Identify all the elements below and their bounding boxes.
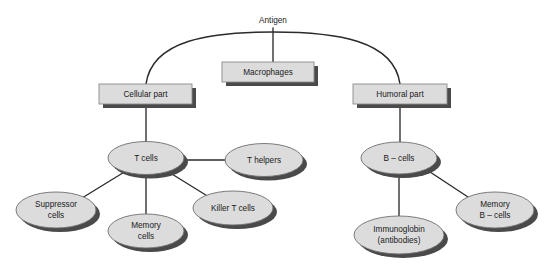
node-t-cells[interactable]: T cells (108, 142, 188, 179)
killer-t-cells-body[interactable] (193, 191, 273, 225)
edge-t-cells-to-suppressor-cells (82, 171, 126, 198)
node-b-cells[interactable]: B – cells (361, 142, 441, 178)
suppressor-cells-body[interactable] (16, 192, 96, 228)
memory-b-cells-body[interactable] (456, 192, 534, 228)
immunoglobin-body[interactable] (354, 216, 444, 254)
node-memory-cells[interactable]: Memory cells (108, 214, 188, 252)
immune-response-diagram: Antigen Macrophages Cellular part Humora… (0, 0, 547, 270)
memory-cells-body[interactable] (108, 214, 184, 248)
node-t-helpers[interactable]: T helpers (225, 144, 307, 181)
t-cells-body[interactable] (108, 142, 184, 175)
node-immunoglobin[interactable]: Immunoglobin (antibodies) (354, 216, 448, 258)
diagram-canvas: Antigen Macrophages Cellular part Humora… (0, 0, 547, 270)
node-memory-b-cells[interactable]: Memory B – cells (456, 192, 538, 232)
macrophages-body[interactable] (222, 62, 314, 82)
node-humoral-part[interactable]: Humoral part (353, 84, 451, 108)
node-macrophages[interactable]: Macrophages (222, 62, 318, 86)
node-cellular-part[interactable]: Cellular part (99, 84, 196, 108)
humoral-part-body[interactable] (353, 84, 447, 104)
node-killer-t-cells[interactable]: Killer T cells (193, 191, 277, 229)
cellular-part-body[interactable] (99, 84, 192, 104)
t-helpers-body[interactable] (225, 144, 303, 177)
root-node-antigen-label: Antigen (259, 16, 287, 25)
connector-layer (82, 28, 468, 218)
b-cells-body[interactable] (361, 142, 437, 174)
node-suppressor-cells[interactable]: Suppressor cells (16, 192, 100, 232)
